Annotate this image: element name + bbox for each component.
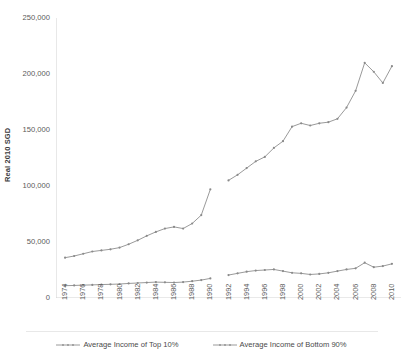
data-point <box>118 247 120 249</box>
x-axis-tick-label: 1984 <box>152 284 159 300</box>
data-point <box>182 227 184 229</box>
data-point <box>300 272 302 274</box>
data-point <box>64 257 66 259</box>
data-point <box>73 284 75 286</box>
data-point <box>227 274 229 276</box>
data-point <box>291 126 293 128</box>
x-axis-tick-label: 2002 <box>316 284 323 300</box>
x-axis-tick-label: 1974 <box>61 284 68 300</box>
data-point <box>155 231 157 233</box>
data-point <box>200 214 202 216</box>
x-axis-tick-label: 1982 <box>134 284 141 300</box>
data-point <box>82 253 84 255</box>
series-line <box>229 63 392 181</box>
series-top10 <box>64 62 393 259</box>
data-point <box>209 188 211 190</box>
data-point <box>73 255 75 257</box>
data-point <box>309 273 311 275</box>
data-point <box>264 269 266 271</box>
x-axis-tick-label: 1994 <box>243 284 250 300</box>
data-point <box>255 269 257 271</box>
y-axis-tick-label: 200,000 <box>4 70 50 78</box>
data-point <box>382 82 384 84</box>
data-point <box>100 249 102 251</box>
data-point <box>391 65 393 67</box>
y-axis-tick-label: 50,000 <box>4 238 50 246</box>
data-point <box>164 227 166 229</box>
plot-area <box>56 18 401 298</box>
x-axis-tick-label: 1996 <box>261 284 268 300</box>
data-point <box>146 235 148 237</box>
data-point <box>137 239 139 241</box>
data-point <box>318 122 320 124</box>
plot-svg <box>56 18 401 298</box>
legend-label-top10: Average Income of Top 10% <box>83 341 178 349</box>
data-point <box>364 262 366 264</box>
data-point <box>128 243 130 245</box>
data-point <box>236 272 238 274</box>
data-point <box>327 121 329 123</box>
legend-divider <box>26 331 378 332</box>
x-axis-tick-labels: 1974197619781980198219841986198819901992… <box>56 300 401 332</box>
data-point <box>255 160 257 162</box>
data-point <box>391 263 393 265</box>
legend-line-marker-icon <box>56 341 80 349</box>
data-point <box>327 272 329 274</box>
data-point <box>182 281 184 283</box>
series-line <box>65 189 210 257</box>
data-point <box>91 284 93 286</box>
data-point <box>91 250 93 252</box>
x-axis-tick-label: 1990 <box>207 284 214 300</box>
data-point <box>173 226 175 228</box>
data-point <box>355 267 357 269</box>
y-axis-tick-label: 100,000 <box>4 182 50 190</box>
x-axis-tick-label: 1992 <box>225 284 232 300</box>
data-point <box>191 222 193 224</box>
data-point <box>364 62 366 64</box>
x-axis-tick-label: 2004 <box>334 284 341 300</box>
series-line <box>229 263 392 275</box>
data-point <box>345 107 347 109</box>
data-point <box>318 273 320 275</box>
x-axis-tick-label: 2000 <box>297 284 304 300</box>
x-axis-tick-label: 2010 <box>388 284 395 300</box>
x-axis-tick-label: 2006 <box>352 284 359 300</box>
x-axis-tick-label: 1976 <box>80 284 87 300</box>
data-point <box>164 281 166 283</box>
x-axis-tick-label: 1998 <box>279 284 286 300</box>
income-inequality-line-chart: Real 2010 SGD 050,000100,000150,000200,0… <box>0 0 403 356</box>
data-point <box>300 122 302 124</box>
y-axis-tick-labels: 050,000100,000150,000200,000250,000 <box>0 0 50 356</box>
data-point <box>382 265 384 267</box>
x-axis-tick-label: 1986 <box>170 284 177 300</box>
data-point <box>109 248 111 250</box>
data-point <box>200 279 202 281</box>
data-point <box>128 282 130 284</box>
data-point <box>373 266 375 268</box>
x-axis-tick-label: 1980 <box>116 284 123 300</box>
chart-legend: Average Income of Top 10% Average Income… <box>0 336 403 354</box>
data-point <box>109 283 111 285</box>
data-point <box>282 270 284 272</box>
legend-entry-top10[interactable]: Average Income of Top 10% <box>56 341 178 349</box>
data-point <box>355 90 357 92</box>
data-point <box>273 147 275 149</box>
data-point <box>246 271 248 273</box>
y-axis-tick-label: 150,000 <box>4 126 50 134</box>
y-axis-tick-label: 0 <box>4 294 50 302</box>
legend-entry-bottom90[interactable]: Average Income of Bottom 90% <box>213 341 347 349</box>
x-axis-tick-label: 2008 <box>370 284 377 300</box>
data-point <box>291 272 293 274</box>
legend-label-bottom90: Average Income of Bottom 90% <box>240 341 347 349</box>
data-point <box>336 270 338 272</box>
y-axis-tick-label: 250,000 <box>4 14 50 22</box>
data-point <box>227 179 229 181</box>
data-point <box>373 71 375 73</box>
data-point <box>209 277 211 279</box>
data-point <box>282 140 284 142</box>
data-point <box>191 280 193 282</box>
data-point <box>309 124 311 126</box>
x-axis-tick-label: 1978 <box>98 284 105 300</box>
data-point <box>345 268 347 270</box>
data-point <box>246 167 248 169</box>
